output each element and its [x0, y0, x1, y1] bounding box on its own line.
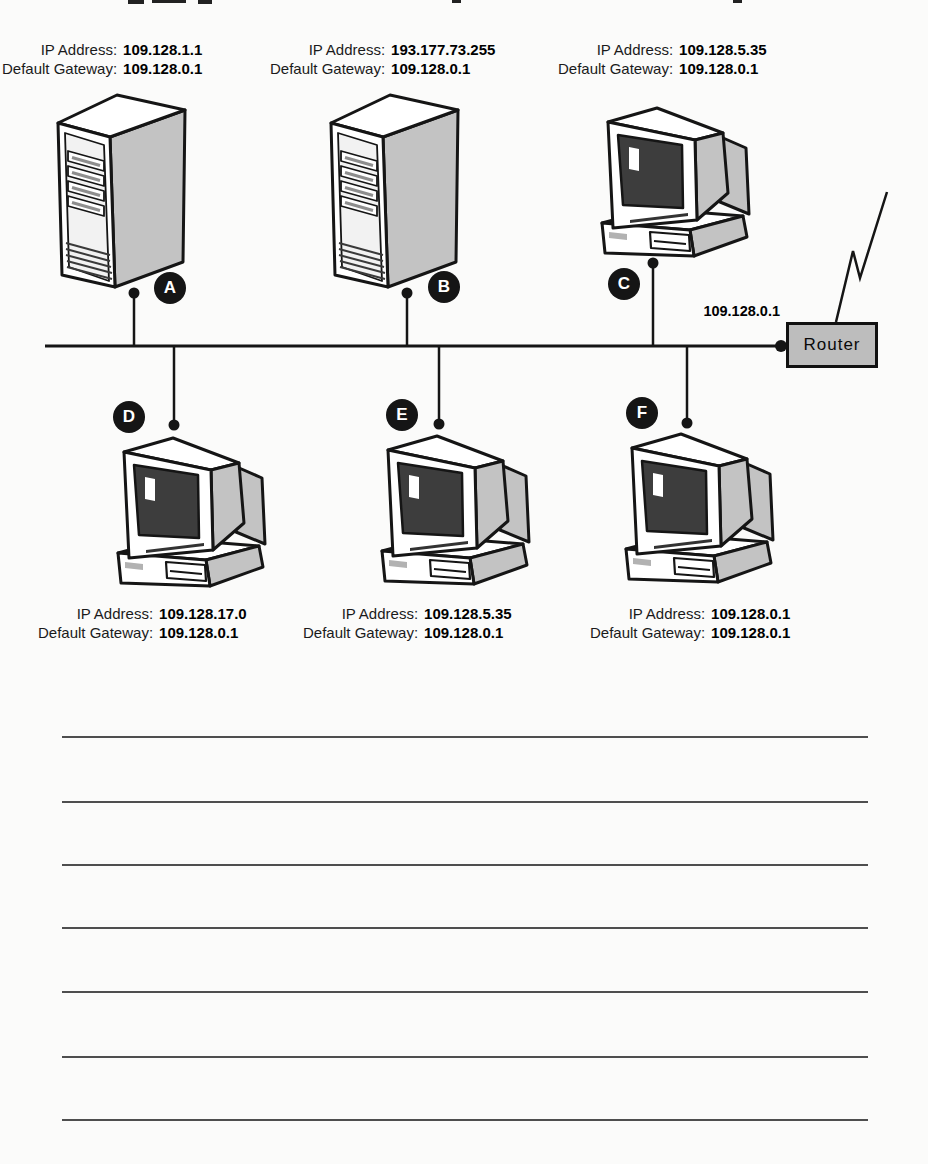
ip-field-label: IP Address:: [270, 40, 385, 59]
cropped-text-artifact: [452, 0, 461, 3]
ip-value: 109.128.17.0: [159, 604, 247, 623]
server-tower-a-icon: [52, 85, 192, 300]
node-badge-b: B: [428, 271, 460, 303]
answer-line: [62, 1056, 868, 1058]
router-box: Router: [786, 322, 878, 368]
wan-lightning-icon: [836, 192, 887, 322]
answer-line: [62, 801, 868, 803]
ip-field-label: IP Address:: [558, 40, 673, 59]
worksheet-page: IP Address: 109.128.1.1 Default Gateway:…: [0, 0, 928, 1164]
gateway-value: 109.128.0.1: [391, 59, 495, 78]
device-b-labels: IP Address: 193.177.73.255 Default Gatew…: [270, 40, 495, 78]
gateway-field-label: Default Gateway:: [303, 623, 418, 642]
device-c-labels: IP Address: 109.128.5.35 Default Gateway…: [558, 40, 767, 78]
cropped-text-artifact: [152, 0, 186, 3]
node-badge-c: C: [608, 268, 640, 300]
cropped-text-artifact: [198, 0, 212, 4]
gateway-field-label: Default Gateway:: [270, 59, 385, 78]
answer-line: [62, 991, 868, 993]
workstation-c-icon: [596, 96, 756, 266]
device-f-labels: IP Address: 109.128.0.1 Default Gateway:…: [590, 604, 790, 642]
gateway-field-label: Default Gateway:: [2, 59, 117, 78]
router-ip-label: 109.128.0.1: [650, 303, 780, 319]
ip-value: 109.128.5.35: [679, 40, 767, 59]
gateway-value: 109.128.0.1: [159, 623, 247, 642]
workstation-f-icon: [620, 422, 780, 592]
node-badge-d: D: [113, 401, 145, 433]
node-badge-f: F: [626, 397, 658, 429]
workstation-d-icon: [112, 426, 272, 596]
ip-value: 109.128.0.1: [711, 604, 790, 623]
gateway-field-label: Default Gateway:: [558, 59, 673, 78]
device-a-labels: IP Address: 109.128.1.1 Default Gateway:…: [2, 40, 202, 78]
node-badge-e: E: [386, 399, 418, 431]
answer-line: [62, 736, 868, 738]
gateway-value: 109.128.0.1: [679, 59, 767, 78]
ip-value: 193.177.73.255: [391, 40, 495, 59]
ip-value: 109.128.5.35: [424, 604, 512, 623]
device-e-labels: IP Address: 109.128.5.35 Default Gateway…: [303, 604, 512, 642]
server-tower-b-icon: [325, 85, 465, 300]
ip-field-label: IP Address:: [38, 604, 153, 623]
gateway-field-label: Default Gateway:: [590, 623, 705, 642]
answer-line: [62, 927, 868, 929]
ip-value: 109.128.1.1: [123, 40, 202, 59]
gateway-value: 109.128.0.1: [711, 623, 790, 642]
workstation-e-icon: [376, 424, 536, 594]
ip-field-label: IP Address:: [590, 604, 705, 623]
ip-field-label: IP Address:: [303, 604, 418, 623]
gateway-value: 109.128.0.1: [424, 623, 512, 642]
answer-line: [62, 1119, 868, 1121]
ip-field-label: IP Address:: [2, 40, 117, 59]
answer-line: [62, 864, 868, 866]
cropped-text-artifact: [128, 0, 144, 4]
device-d-labels: IP Address: 109.128.17.0 Default Gateway…: [38, 604, 247, 642]
gateway-value: 109.128.0.1: [123, 59, 202, 78]
node-badge-a: A: [154, 272, 186, 304]
cropped-text-artifact: [733, 0, 742, 3]
gateway-field-label: Default Gateway:: [38, 623, 153, 642]
